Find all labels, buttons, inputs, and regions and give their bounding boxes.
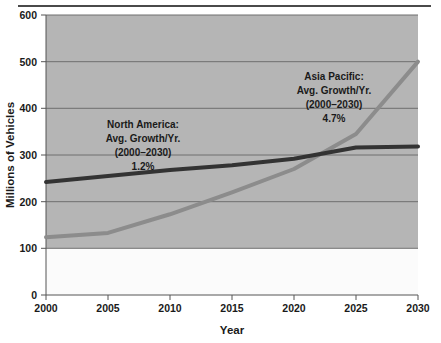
- annotation-ap-value: 4.7%: [323, 113, 346, 124]
- x-tick-2000: 2000: [34, 302, 58, 314]
- x-tick-2010: 2010: [158, 302, 182, 314]
- line-chart: 600 500 400 300 200 100 0 2000 2005 2010…: [0, 0, 441, 343]
- plot-background-lower: [46, 248, 418, 295]
- annotation-na-line-2: Avg. Growth/Yr.: [106, 133, 181, 144]
- y-tick-0: 0: [31, 289, 37, 301]
- annotation-ap-line-1: Asia Pacific:: [304, 71, 363, 82]
- chart-figure: 600 500 400 300 200 100 0 2000 2005 2010…: [0, 0, 441, 343]
- y-axis-tick-labels: 600 500 400 300 200 100 0: [19, 9, 37, 301]
- y-tick-100: 100: [19, 242, 37, 254]
- x-tick-2015: 2015: [220, 302, 244, 314]
- y-axis-ticks: [41, 15, 46, 295]
- y-tick-400: 400: [19, 102, 37, 114]
- y-tick-600: 600: [19, 9, 37, 21]
- annotation-ap-line-3: (2000–2030): [306, 99, 363, 110]
- annotation-na-line-3: (2000–2030): [115, 147, 172, 158]
- annotation-na-value: 1.2%: [132, 161, 155, 172]
- y-axis-title: Millions of Vehicles: [4, 102, 16, 208]
- x-axis-ticks: [46, 295, 418, 300]
- x-axis-title: Year: [220, 324, 245, 336]
- plot-background-upper: [46, 15, 418, 248]
- x-tick-2025: 2025: [344, 302, 368, 314]
- x-tick-2005: 2005: [96, 302, 120, 314]
- y-tick-500: 500: [19, 56, 37, 68]
- x-tick-2020: 2020: [282, 302, 306, 314]
- annotation-ap-line-2: Avg. Growth/Yr.: [297, 85, 372, 96]
- x-tick-2030: 2030: [406, 302, 430, 314]
- annotation-na-line-1: North America:: [107, 119, 179, 130]
- y-tick-200: 200: [19, 196, 37, 208]
- y-tick-300: 300: [19, 149, 37, 161]
- x-axis-tick-labels: 2000 2005 2010 2015 2020 2025 2030: [34, 302, 430, 314]
